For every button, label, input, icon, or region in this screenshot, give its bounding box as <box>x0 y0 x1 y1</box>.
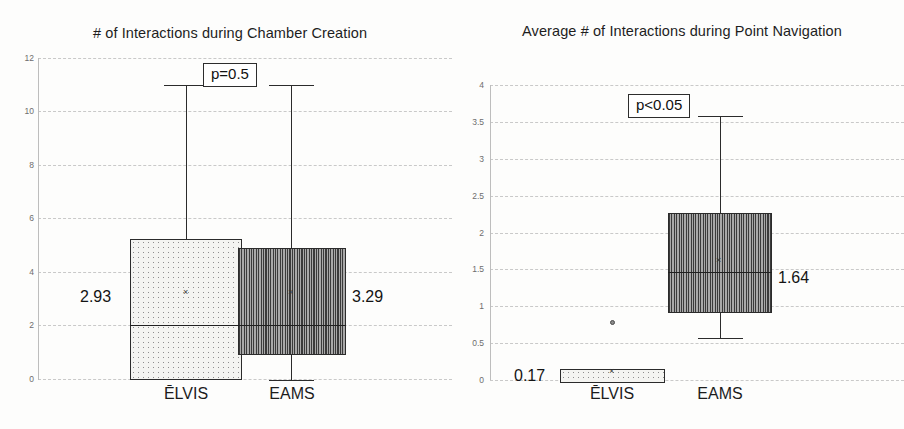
eams-upper-whisker-cap <box>269 85 314 86</box>
eams-upper-whisker-2 <box>720 116 721 213</box>
y-tick-3_0: 3 <box>458 155 484 164</box>
category-label-eams: EAMS <box>242 386 342 402</box>
category-label-eams-2: EAMS <box>670 386 770 402</box>
gridline-0_0 <box>490 380 904 381</box>
elvis-upper-whisker <box>186 85 187 239</box>
gridline-8 <box>38 165 452 166</box>
eams-median-line-2 <box>668 272 772 273</box>
eams-mean-marker-2: × <box>716 256 721 265</box>
y-tick-0_5: 0.5 <box>458 339 484 348</box>
y-tick-0: 0 <box>8 375 34 384</box>
category-label-elvis-2: ĒLVIS <box>562 386 662 402</box>
gridline-2_5 <box>490 196 904 197</box>
y-tick-1_5: 1.5 <box>458 265 484 274</box>
eams-mean-value-label-2: 1.64 <box>778 270 809 286</box>
elvis-mean-value-label: 2.93 <box>80 289 111 305</box>
eams-upper-whisker <box>291 85 292 248</box>
eams-lower-whisker-2 <box>720 313 721 338</box>
y-tick-0_0: 0 <box>458 376 484 385</box>
gridline-3_5 <box>490 122 904 123</box>
gridline-0 <box>38 379 452 380</box>
eams-lower-whisker-cap-2 <box>698 338 743 339</box>
p-value-annotation-2: p<0.05 <box>628 94 690 118</box>
gridline-0_5 <box>490 343 904 344</box>
eams-lower-whisker-cap <box>269 380 314 381</box>
eams-outlier-point <box>610 320 615 325</box>
chart-chamber-creation: # of Interactions during Chamber Creatio… <box>0 0 452 429</box>
elvis-median-line <box>130 325 242 326</box>
y-axis-line-2 <box>490 85 491 380</box>
figure-canvas: # of Interactions during Chamber Creatio… <box>0 0 904 429</box>
y-tick-2_0: 2 <box>458 229 484 238</box>
eams-mean-value-label: 3.29 <box>352 289 383 305</box>
y-tick-2: 2 <box>8 321 34 330</box>
gridline-6 <box>38 218 452 219</box>
eams-upper-whisker-cap-2 <box>698 116 743 117</box>
y-tick-10: 10 <box>8 107 34 116</box>
gridline-4_0 <box>490 85 904 86</box>
y-tick-4: 4 <box>8 268 34 277</box>
gridline-12 <box>38 58 452 59</box>
y-tick-4_0: 4 <box>458 81 484 90</box>
elvis-mean-marker-2: × <box>609 367 614 376</box>
plot-area-left: 12 10 8 6 4 2 0 × 2.93 × 3.29 <box>0 0 452 429</box>
elvis-mean-marker: × <box>183 288 188 297</box>
y-tick-6: 6 <box>8 214 34 223</box>
category-label-elvis: ĒLVIS <box>136 386 236 402</box>
y-axis-line <box>38 58 39 380</box>
elvis-mean-value-label-2: 0.17 <box>514 368 545 384</box>
eams-box <box>238 248 346 355</box>
eams-lower-whisker <box>291 355 292 380</box>
gridline-3_0 <box>490 159 904 160</box>
y-tick-1_0: 1 <box>458 302 484 311</box>
y-tick-3_5: 3.5 <box>458 118 484 127</box>
gridline-10 <box>38 111 452 112</box>
elvis-box <box>130 239 242 380</box>
eams-median-line <box>238 325 346 326</box>
y-tick-8: 8 <box>8 161 34 170</box>
y-tick-2_5: 2.5 <box>458 192 484 201</box>
eams-mean-marker: × <box>288 288 293 297</box>
p-value-annotation: p=0.5 <box>203 63 257 87</box>
chart-point-navigation: Average # of Interactions during Point N… <box>452 0 904 429</box>
y-tick-12: 12 <box>8 54 34 63</box>
plot-area-right: 4 3.5 3 2.5 2 1.5 1 0.5 0 × 0.17 × 1.64 <box>452 0 904 429</box>
